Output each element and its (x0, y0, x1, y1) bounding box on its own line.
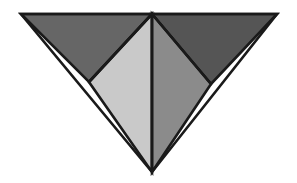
triangle-diagram: Inverted triangle subdivided into four s… (0, 0, 297, 183)
figure-canvas: Inverted triangle subdivided into four s… (0, 0, 297, 183)
